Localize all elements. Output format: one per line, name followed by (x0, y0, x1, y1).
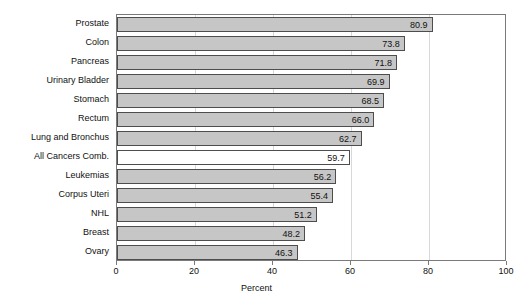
category-label: Ovary (85, 247, 109, 256)
bar-value-label: 69.9 (367, 77, 385, 86)
bar-value-label: 62.7 (339, 134, 357, 143)
bar-row: 73.8 (117, 36, 505, 51)
bars-layer: 80.973.871.869.968.566.062.759.756.255.4… (117, 15, 505, 260)
bar-value-label: 59.7 (327, 153, 345, 162)
bar-row: 55.4 (117, 188, 505, 203)
category-label: Breast (83, 228, 109, 237)
bar-row: 56.2 (117, 169, 505, 184)
bar-row: 48.2 (117, 226, 505, 241)
category-label: Colon (85, 38, 109, 47)
bar-nhl: 51.2 (117, 207, 317, 222)
bar-row: 80.9 (117, 17, 505, 32)
category-label: Corpus Uteri (58, 190, 109, 199)
category-axis-labels: ProstateColonPancreasUrinary BladderStom… (0, 14, 113, 261)
category-label: Urinary Bladder (46, 76, 109, 85)
x-tick-label-80: 80 (423, 267, 433, 276)
bar-lung-and-bronchus: 62.7 (117, 131, 362, 146)
bar-value-label: 68.5 (362, 96, 380, 105)
x-tick-label-40: 40 (267, 267, 277, 276)
bar-row: 66.0 (117, 112, 505, 127)
bar-stomach: 68.5 (117, 93, 384, 108)
x-tick-label-20: 20 (189, 267, 199, 276)
bar-prostate: 80.9 (117, 17, 433, 32)
bar-row: 51.2 (117, 207, 505, 222)
bar-row: 68.5 (117, 93, 505, 108)
x-tick-label-100: 100 (498, 267, 513, 276)
x-axis-ticks: 020406080100 (116, 261, 506, 285)
bar-pancreas: 71.8 (117, 55, 397, 70)
category-label: Rectum (78, 114, 109, 123)
bar-row: 69.9 (117, 74, 505, 89)
bar-row: 59.7 (117, 150, 505, 165)
bar-row: 46.3 (117, 245, 505, 260)
category-label: All Cancers Comb. (34, 152, 109, 161)
bar-row: 62.7 (117, 131, 505, 146)
x-axis-title-text: Percent (241, 283, 272, 293)
x-tick-mark-20 (194, 261, 195, 265)
bar-corpus-uteri: 55.4 (117, 188, 333, 203)
bar-value-label: 66.0 (352, 115, 370, 124)
x-tick-mark-60 (350, 261, 351, 265)
bar-colon: 73.8 (117, 36, 405, 51)
x-tick-mark-40 (272, 261, 273, 265)
bar-leukemias: 56.2 (117, 169, 336, 184)
bar-value-label: 56.2 (314, 172, 332, 181)
x-tick-label-60: 60 (345, 267, 355, 276)
bar-value-label: 48.2 (282, 229, 300, 238)
bar-value-label: 71.8 (374, 58, 392, 67)
bar-value-label: 73.8 (382, 39, 400, 48)
category-label: Prostate (75, 19, 109, 28)
bar-value-label: 51.2 (294, 210, 312, 219)
category-label: Lung and Bronchus (31, 133, 109, 142)
x-tick-mark-100 (506, 261, 507, 265)
x-tick-mark-80 (428, 261, 429, 265)
bar-rectum: 66.0 (117, 112, 374, 127)
bar-chart: ProstateColonPancreasUrinary BladderStom… (0, 0, 529, 306)
plot-area: 80.973.871.869.968.566.062.759.756.255.4… (116, 14, 506, 261)
bar-urinary-bladder: 69.9 (117, 74, 390, 89)
category-label: Leukemias (65, 171, 109, 180)
x-tick-mark-0 (116, 261, 117, 265)
bar-all-cancers-comb: 59.7 (117, 150, 350, 165)
category-label: NHL (91, 209, 109, 218)
bar-value-label: 46.3 (275, 248, 293, 257)
category-label: Stomach (73, 95, 109, 104)
bar-breast: 48.2 (117, 226, 305, 241)
x-axis-title: Percent (0, 283, 529, 293)
category-label: Pancreas (71, 57, 109, 66)
bar-row: 71.8 (117, 55, 505, 70)
bar-value-label: 80.9 (410, 20, 428, 29)
x-tick-label-0: 0 (113, 267, 118, 276)
bar-value-label: 55.4 (311, 191, 329, 200)
bar-ovary: 46.3 (117, 245, 298, 260)
